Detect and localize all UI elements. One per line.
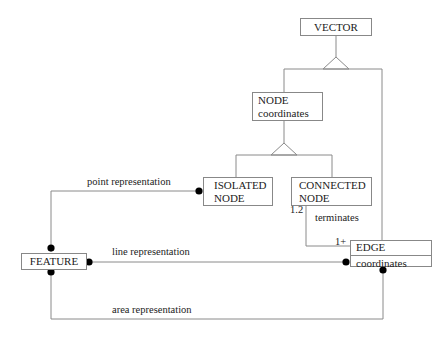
cardinality-edge: 1+ — [335, 236, 346, 247]
entity-connected-node-line2: NODE — [299, 192, 366, 205]
entity-isolated-node-line1: ISOLATED — [214, 179, 267, 192]
entity-node-attribute: coordinates — [258, 107, 317, 120]
point-rep-dot — [195, 187, 202, 194]
relationship-line-label: line representation — [112, 246, 190, 257]
entity-edge-attribute: coordinates — [351, 255, 431, 270]
entity-vector-name: VECTOR — [314, 21, 358, 33]
entity-edge-name: EDGE — [356, 241, 426, 255]
entity-feature-name: FEATURE — [30, 255, 78, 267]
entity-edge[interactable]: EDGE coordinates — [350, 240, 432, 267]
connector-lines — [0, 0, 441, 340]
relationship-area-label: area representation — [112, 304, 192, 315]
entity-feature[interactable]: FEATURE — [21, 253, 87, 270]
entity-connected-node[interactable]: CONNECTED NODE — [291, 177, 372, 206]
relationship-terminates-label: terminates — [315, 212, 359, 223]
entity-isolated-node-line2: NODE — [214, 192, 267, 205]
entity-node-name: NODE — [258, 94, 317, 107]
entity-isolated-node[interactable]: ISOLATED NODE — [203, 177, 273, 206]
relationship-point-label: point representation — [87, 176, 171, 187]
entity-node[interactable]: NODE coordinates — [252, 92, 323, 121]
entity-vector[interactable]: VECTOR — [300, 18, 372, 36]
cardinality-connected-node: 1.2 — [290, 204, 303, 215]
entity-connected-node-line1: CONNECTED — [299, 179, 366, 192]
